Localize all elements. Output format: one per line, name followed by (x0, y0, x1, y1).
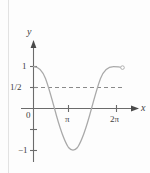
x-tick-label-2pi: 2π (110, 115, 119, 124)
y-axis-label: y (27, 27, 31, 37)
x-axis-arrowhead (131, 106, 139, 112)
y-tick-label-one-half: 1/2 (10, 83, 22, 92)
origin-label: 0 (26, 111, 31, 120)
y-axis-arrowhead (31, 40, 37, 48)
x-tick-label-pi: π (65, 115, 70, 124)
y-tick-label-1: 1 (22, 62, 27, 71)
curve-endpoint-marker (121, 66, 125, 70)
y-tick-label-negative-1: −1 (18, 146, 28, 155)
figure-panel: y x 0 1 1/2 −1 π 2π (0, 0, 150, 173)
x-axis-label: x (141, 103, 145, 113)
